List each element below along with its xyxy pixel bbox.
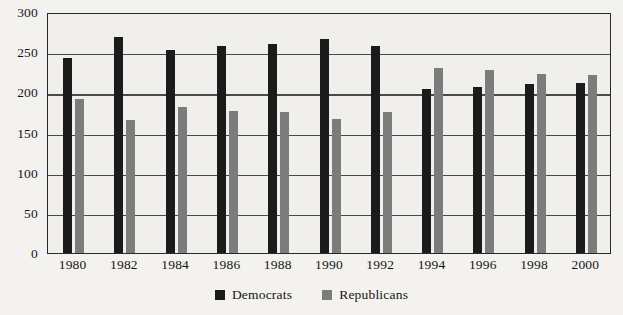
- bar-republicans-1992: [383, 112, 392, 253]
- bar-republicans-1982: [126, 120, 135, 253]
- bar-democrats-1990: [320, 39, 329, 253]
- bar-republicans-1998: [537, 74, 546, 253]
- y-axis-tick-label: 0: [31, 247, 38, 261]
- y-axis: 050100150200250300: [0, 0, 44, 315]
- bar-republicans-1996: [485, 70, 494, 253]
- x-axis-tick-label: 1988: [252, 258, 303, 272]
- x-axis-tick-label: 1982: [98, 258, 149, 272]
- bar-republicans-1990: [332, 119, 341, 253]
- bar-democrats-1988: [268, 44, 277, 253]
- legend-swatch-icon: [215, 290, 225, 300]
- bar-democrats-1986: [217, 46, 226, 253]
- legend-item-republicans: Republicans: [322, 288, 408, 302]
- y-axis-tick-label: 300: [17, 6, 38, 20]
- y-axis-tick-label: 150: [17, 127, 38, 141]
- bar-republicans-1986: [229, 111, 238, 253]
- x-axis-tick-label: 1986: [201, 258, 252, 272]
- bar-democrats-1992: [371, 46, 380, 253]
- y-axis-tick-label: 200: [17, 86, 38, 100]
- bar-republicans-1980: [75, 99, 84, 253]
- x-axis-tick-label: 1990: [303, 258, 354, 272]
- y-axis-tick-label: 250: [17, 46, 38, 60]
- legend-swatch-icon: [322, 290, 332, 300]
- x-axis-tick-label: 1994: [406, 258, 457, 272]
- x-axis: 1980198219841986198819901992199419961998…: [47, 258, 611, 280]
- legend-label: Democrats: [232, 288, 292, 302]
- x-axis-tick-label: 1998: [508, 258, 559, 272]
- bars-layer: [48, 14, 610, 253]
- bar-democrats-1984: [166, 50, 175, 253]
- x-axis-tick-label: 2000: [560, 258, 611, 272]
- bar-democrats-1998: [525, 84, 534, 254]
- x-axis-tick-label: 1992: [355, 258, 406, 272]
- bar-democrats-1996: [473, 87, 482, 253]
- bar-republicans-1984: [178, 107, 187, 253]
- x-axis-tick-label: 1984: [150, 258, 201, 272]
- bar-republicans-1994: [434, 68, 443, 253]
- y-axis-tick-label: 50: [24, 207, 38, 221]
- bar-democrats-1994: [422, 89, 431, 253]
- x-axis-tick-label: 1980: [47, 258, 98, 272]
- bar-democrats-1982: [114, 37, 123, 253]
- x-axis-tick-label: 1996: [457, 258, 508, 272]
- bar-republicans-2000: [588, 75, 597, 253]
- legend-item-democrats: Democrats: [215, 288, 292, 302]
- bar-republicans-1988: [280, 112, 289, 253]
- legend-label: Republicans: [339, 288, 408, 302]
- bar-chart: 050100150200250300 198019821984198619881…: [0, 0, 623, 315]
- bar-democrats-1980: [63, 58, 72, 253]
- chart-legend: DemocratsRepublicans: [0, 288, 623, 302]
- y-axis-tick-label: 100: [17, 167, 38, 181]
- plot-area: [47, 13, 611, 254]
- bar-democrats-2000: [576, 83, 585, 253]
